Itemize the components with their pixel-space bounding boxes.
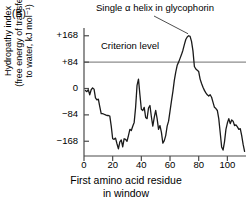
y-axis-label-line3: to water, kJ mol⁻¹)	[24, 0, 35, 87]
hydropathy-curve	[85, 36, 244, 152]
y-tick-label: 0	[42, 82, 78, 93]
y-tick-label: −84	[42, 108, 78, 119]
y-axis-label: Hydropathy index (free energy of transfe…	[6, 0, 32, 106]
x-tick-label: 0	[72, 159, 96, 170]
x-tick-label: 40	[129, 159, 153, 170]
criterion-level-label: Criterion level	[99, 40, 161, 51]
y-tick-label: +168	[42, 29, 78, 40]
helix-annotation: Single α helix in glycophorin	[96, 2, 214, 13]
x-axis-label-line2: in window	[0, 187, 252, 200]
y-axis-label-line1: Hydropathy index	[3, 0, 14, 87]
y-tick-label: +84	[42, 56, 78, 67]
y-tick-label: −168	[42, 135, 78, 146]
x-axis-label-line1: First amino acid residue	[0, 174, 252, 187]
x-tick-label: 80	[187, 159, 211, 170]
y-axis-label-line2: (free energy of transfer	[14, 0, 25, 87]
helix-annotation-line2: in glycophorin	[155, 2, 214, 13]
hydropathy-plot-figure: (B) Single α helix in glycophorin Criter…	[0, 0, 252, 212]
annotation-leader-line	[154, 16, 188, 34]
x-axis-label: First amino acid residue in window	[0, 174, 252, 200]
x-tick-label: 20	[101, 159, 125, 170]
x-tick-label: 60	[158, 159, 182, 170]
x-tick-label: 100	[215, 159, 239, 170]
helix-annotation-line1: Single α helix	[96, 2, 153, 13]
